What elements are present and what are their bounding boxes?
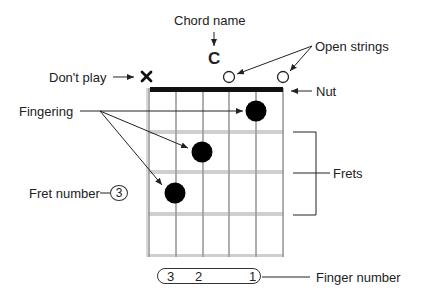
mute-x-icon bbox=[142, 72, 151, 81]
chord-name: C bbox=[208, 50, 220, 67]
fret-number-badge: 3 bbox=[110, 185, 128, 201]
open-string-icon bbox=[224, 72, 235, 83]
fingering-label: Fingering bbox=[19, 105, 73, 118]
finger-number: 3 bbox=[167, 270, 174, 283]
nut bbox=[150, 87, 283, 92]
open-string-icon bbox=[278, 72, 289, 83]
nut-label: Nut bbox=[316, 85, 336, 98]
finger-dot-2 bbox=[192, 142, 213, 163]
finger-dot-3 bbox=[165, 183, 186, 204]
finger-number: 2 bbox=[195, 270, 202, 283]
finger-dot-1 bbox=[246, 101, 267, 122]
open-strings-label: Open strings bbox=[315, 40, 389, 53]
finger-number-label: Finger number bbox=[316, 271, 401, 284]
finger-number: 1 bbox=[249, 270, 256, 283]
dont-play-label: Don't play bbox=[49, 71, 106, 84]
chord-name-label: Chord name bbox=[174, 14, 246, 27]
fret-number-label: Fret number bbox=[29, 187, 100, 200]
frets-label: Frets bbox=[333, 167, 363, 180]
